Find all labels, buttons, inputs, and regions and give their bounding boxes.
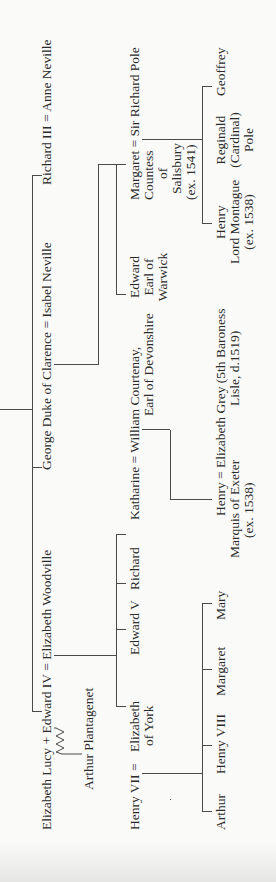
margaret-5: (ex. 1541) (184, 145, 198, 200)
richard-tick (116, 583, 126, 584)
mary-tick (202, 603, 212, 604)
edward-iv-children-line (116, 535, 117, 707)
henry-vii-drop (142, 773, 202, 774)
geoffrey: Geoffrey (214, 48, 228, 96)
warwick-2: Earl of (142, 252, 156, 302)
warwick-1: Edward (128, 252, 142, 302)
henry-exeter-title: Marquis of Exeter (228, 460, 242, 558)
pole-children-line (202, 87, 203, 224)
edward-iv-union: Elizabeth Lucy + Edward IV = Elizabeth W… (40, 550, 54, 830)
henry-vii: Henry VII = (128, 763, 142, 830)
page-shadow (0, 842, 276, 882)
arthur: Arthur (214, 794, 228, 830)
katharine-union: Katharine = William Courtenay, (128, 347, 142, 520)
warwick-tick (116, 294, 126, 295)
henry-vii-children-line (202, 604, 203, 812)
reginald-3: Pole (242, 104, 256, 176)
henry-exeter-union: Henry = Elizabeth Grey (5th Baroness (214, 309, 228, 516)
george-union: George Duke of Clarence = Isabel Neville (40, 242, 54, 470)
katharine-drop (142, 429, 170, 430)
parent-drop-line (0, 409, 32, 410)
montague-1: Henry (214, 180, 228, 264)
courtenay-title: Earl of Devonshire (142, 313, 156, 416)
elizabeth-york-tick (116, 706, 126, 707)
katharine-child-line (170, 430, 171, 500)
henry-viii-tick (202, 745, 212, 746)
warwick-3: Warwick (156, 252, 170, 302)
henry-viii: Henry VIII (214, 714, 228, 774)
elizabeth-of-york: Elizabeth (128, 701, 142, 752)
montague-3: (ex. 1538) (242, 180, 256, 264)
margaret-tudor-tick (202, 669, 212, 670)
arthur-tick (202, 811, 212, 812)
reginald-1: Reginald (214, 104, 228, 176)
elizabeth-of-york-2: of York (142, 705, 156, 746)
katharine-tick (116, 534, 126, 535)
montague-tick (202, 223, 212, 224)
geoffrey-tick (202, 86, 212, 87)
reginald-2: (Cardinal) (228, 104, 242, 176)
trunk-line (32, 175, 33, 712)
henry-exeter-ex: (ex. 1538) (242, 483, 256, 538)
spacer (170, 799, 171, 800)
margaret-drop (142, 139, 202, 140)
george-children-line (116, 165, 117, 295)
margaret-4: Salisbury (170, 143, 184, 194)
richard: Richard (128, 547, 142, 590)
grey-lisle: Lisle, d.1519) (228, 331, 242, 406)
margaret-2: Countess (142, 150, 156, 200)
george-line (98, 165, 99, 365)
margaret-tick (116, 164, 126, 165)
arthur-plantagenet: Arthur Plantagenet (82, 688, 96, 790)
george-line-down (98, 164, 116, 165)
edward-v-tick (116, 629, 126, 630)
margaret-3: of (156, 168, 170, 179)
henry-exeter-line (170, 499, 212, 500)
montague-2: Lord Montague (228, 180, 242, 264)
george-drop (54, 364, 98, 365)
family-tree: Elizabeth Lucy + Edward IV = Elizabeth W… (0, 0, 276, 882)
richard-iii-union: Richard III = Anne Neville (40, 39, 54, 185)
edward-iv-drop (54, 655, 116, 656)
margaret-union: Margaret = Sir Richard Pole (128, 47, 142, 200)
edward-v: Edward V (128, 600, 142, 655)
mary: Mary (214, 591, 228, 620)
margaret-tudor: Margaret (214, 647, 228, 696)
